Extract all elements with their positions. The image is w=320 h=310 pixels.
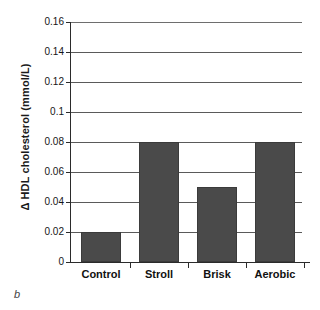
bar-stroll <box>139 142 179 262</box>
y-tick-mark <box>66 142 71 143</box>
y-tick-mark <box>66 22 71 23</box>
gridline <box>70 22 302 23</box>
y-tick-mark <box>66 232 71 233</box>
x-tick-label-aerobic: Aerobic <box>246 268 304 280</box>
plot-area <box>70 22 302 262</box>
y-tick-mark <box>66 112 71 113</box>
bar-control <box>81 232 121 262</box>
y-tick-label: 0.04 <box>30 197 64 207</box>
y-tick-mark <box>66 52 71 53</box>
bar-brisk <box>197 187 237 262</box>
y-tick-label: 0.1 <box>30 107 64 117</box>
y-tick-mark <box>66 82 71 83</box>
gridline <box>70 112 302 113</box>
y-tick-mark <box>66 172 71 173</box>
y-axis-tick-labels: 00.020.040.060.080.10.120.140.16 <box>30 0 64 310</box>
x-axis-line <box>70 262 310 263</box>
y-tick-label: 0.14 <box>30 47 64 57</box>
gridline <box>70 52 302 53</box>
x-tick-label-stroll: Stroll <box>130 268 188 280</box>
y-tick-label: 0.06 <box>30 167 64 177</box>
figure-panel: Δ HDL cholesterol (mmol/L) 00.020.040.06… <box>0 0 320 310</box>
x-tick-label-control: Control <box>72 268 130 280</box>
y-tick-label: 0 <box>30 257 64 267</box>
gridline <box>70 82 302 83</box>
y-tick-mark <box>66 202 71 203</box>
y-tick-label: 0.02 <box>30 227 64 237</box>
x-tick-label-brisk: Brisk <box>188 268 246 280</box>
figure-caption: b <box>14 288 20 300</box>
x-tick-mark <box>304 262 305 268</box>
y-tick-label: 0.16 <box>30 17 64 27</box>
y-tick-label: 0.08 <box>30 137 64 147</box>
bar-aerobic <box>255 142 295 262</box>
y-tick-mark <box>66 262 71 263</box>
y-tick-label: 0.12 <box>30 77 64 87</box>
